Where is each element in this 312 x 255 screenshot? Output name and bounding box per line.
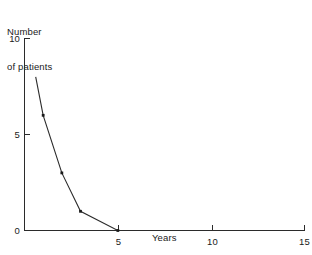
x-tick-label-5: 5 bbox=[116, 236, 121, 247]
chart-figure: Number of patients 10 5 0 5 10 15 Years bbox=[0, 0, 312, 255]
x-axis-title: Years bbox=[152, 232, 177, 243]
y-tick-label-0: 0 bbox=[15, 225, 20, 236]
data-point-marker bbox=[116, 229, 119, 232]
y-tick-label-10: 10 bbox=[9, 33, 20, 44]
y-tick-label-5: 5 bbox=[15, 129, 20, 140]
x-tick-label-15: 15 bbox=[299, 236, 310, 247]
data-point-marker bbox=[42, 114, 45, 117]
data-line-number-of-patients bbox=[36, 77, 305, 231]
plot-area: 10 5 0 5 10 15 Years bbox=[0, 0, 312, 255]
x-tick-label-10: 10 bbox=[207, 236, 218, 247]
data-point-marker bbox=[79, 210, 82, 213]
data-point-marker bbox=[60, 172, 63, 175]
data-series-group bbox=[36, 77, 305, 232]
data-markers-group bbox=[42, 114, 119, 232]
